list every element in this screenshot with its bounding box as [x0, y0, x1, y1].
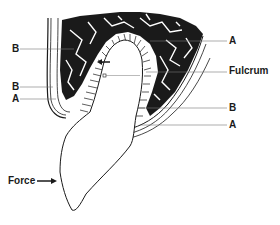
label-force: Force [8, 176, 35, 186]
label-a-left: A [12, 94, 19, 104]
tooth-diagram [0, 0, 280, 225]
label-b-upper-left: B [12, 44, 19, 54]
label-a-upper-right: A [229, 36, 236, 46]
label-b-right: B [229, 103, 236, 113]
arrow-right-icon [37, 178, 57, 184]
label-fulcrum: Fulcrum [229, 66, 268, 76]
label-b-lower-left: B [12, 82, 19, 92]
label-a-lower-right: A [229, 120, 236, 130]
